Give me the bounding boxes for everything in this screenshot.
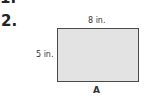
rectangle-shape — [57, 28, 139, 82]
width-label: 8 in. — [88, 16, 105, 25]
figure-caption-label: A — [93, 86, 100, 95]
rectangle-figure: 8 in. 5 in. A — [0, 0, 147, 102]
height-label: 5 in. — [36, 50, 53, 59]
